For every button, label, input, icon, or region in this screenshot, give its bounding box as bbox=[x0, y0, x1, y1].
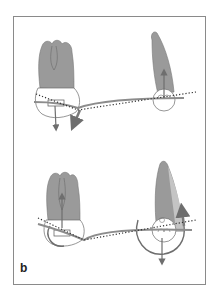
top-panel bbox=[34, 32, 196, 128]
diagram-canvas bbox=[0, 0, 217, 298]
top-molar bbox=[35, 40, 79, 128]
bottom-panel bbox=[38, 161, 196, 262]
bottom-molar bbox=[44, 172, 84, 246]
panel-label: b bbox=[20, 261, 27, 275]
bottom-canine bbox=[137, 161, 185, 262]
